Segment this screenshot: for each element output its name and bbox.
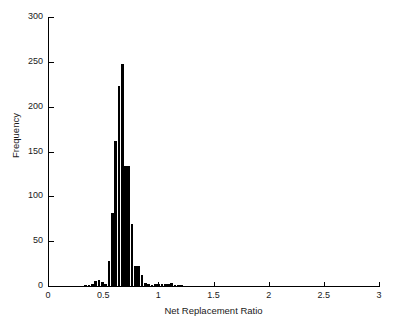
y-tick-mark <box>49 152 54 153</box>
x-tick-mark <box>103 282 104 287</box>
histogram-bar <box>141 275 144 286</box>
y-tick-label: 200 <box>0 102 43 111</box>
y-tick-label: 100 <box>0 191 43 200</box>
y-tick-mark <box>49 196 54 197</box>
y-tick-mark <box>49 62 54 63</box>
x-tick-label: 2 <box>249 291 289 300</box>
x-tick-label: 3 <box>359 291 396 300</box>
histogram-bar <box>134 266 137 286</box>
y-tick-mark <box>49 241 54 242</box>
histogram-bar <box>114 141 117 286</box>
histogram-figure: Frequency 050100150200250300 00.511.522.… <box>0 0 396 325</box>
histogram-bar <box>121 64 124 286</box>
histogram-bars <box>48 17 379 286</box>
histogram-bar <box>108 261 111 286</box>
histogram-bar <box>111 213 114 286</box>
x-tick-label: 0.5 <box>83 291 123 300</box>
histogram-bar <box>131 224 134 286</box>
histogram-bar <box>137 266 140 286</box>
y-tick-label: 150 <box>0 147 43 156</box>
x-tick-label: 2.5 <box>304 291 344 300</box>
y-tick-label: 300 <box>0 12 43 21</box>
y-tick-mark <box>49 286 54 287</box>
x-tick-mark <box>158 282 159 287</box>
y-tick-mark <box>49 17 54 18</box>
y-tick-mark <box>49 107 54 108</box>
x-tick-label: 0 <box>28 291 68 300</box>
x-tick-mark <box>379 282 380 287</box>
histogram-bar <box>127 166 130 286</box>
x-tick-mark <box>214 282 215 287</box>
x-tick-mark <box>48 282 49 287</box>
x-axis-label: Net Replacement Ratio <box>48 305 379 316</box>
x-tick-label: 1 <box>138 291 178 300</box>
x-tick-label: 1.5 <box>194 291 234 300</box>
x-tick-mark <box>269 282 270 287</box>
x-tick-mark <box>324 282 325 287</box>
histogram-bar <box>124 166 127 286</box>
y-tick-label: 250 <box>0 57 43 66</box>
y-tick-label: 50 <box>0 236 43 245</box>
histogram-bar <box>118 86 121 286</box>
y-tick-label: 0 <box>0 281 43 290</box>
